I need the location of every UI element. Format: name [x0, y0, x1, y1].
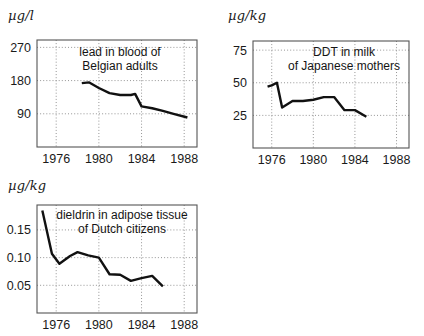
chart-annotation-line: Belgian adults [82, 59, 157, 73]
x-tick-label: 1976 [42, 152, 70, 166]
y-tick-label: 25 [233, 109, 247, 123]
x-tick-label: 1980 [299, 153, 327, 167]
panel-ddt-milk-japan: µg/kg 2550751976198019841988DDT in milko… [212, 0, 424, 170]
y-tick-label: 75 [233, 44, 247, 58]
x-tick-label: 1984 [128, 152, 156, 166]
x-tick-label: 1988 [170, 152, 198, 166]
y-tick-label: 180 [10, 74, 31, 88]
y-tick-label: 0.15 [7, 223, 31, 237]
chart-lead-blood-belgium: 901802701976198019841988lead in blood of… [0, 0, 212, 170]
chart-annotation-line: DDT in milk [313, 45, 376, 59]
chart-annotation-line: of Dutch citizens [78, 222, 166, 236]
chart-annotation-line: lead in blood of [79, 45, 161, 59]
x-tick-label: 1984 [128, 318, 156, 332]
chart-annotation-line: of Japanese mothers [288, 59, 400, 73]
y-tick-label: 50 [233, 76, 247, 90]
y-tick-label: 270 [10, 41, 31, 55]
x-tick-label: 1988 [383, 153, 411, 167]
x-tick-label: 1984 [341, 153, 369, 167]
chart-ddt-milk-japan: 2550751976198019841988DDT in milkof Japa… [212, 0, 424, 170]
y-tick-label: 0.05 [7, 279, 31, 293]
x-tick-label: 1976 [258, 153, 286, 167]
y-tick-label: 0.10 [7, 251, 31, 265]
y-tick-label: 90 [17, 107, 31, 121]
panel-dieldrin-adipose-netherlands: µg/kg 0.050.100.151976198019841988dieldr… [0, 168, 212, 336]
chart-annotation-line: dieldrin in adipose tissue [56, 208, 188, 222]
x-tick-label: 1980 [85, 152, 113, 166]
data-series-line [82, 82, 188, 117]
x-tick-label: 1976 [42, 318, 70, 332]
chart-dieldrin-adipose-netherlands: 0.050.100.151976198019841988dieldrin in … [0, 168, 212, 336]
panel-lead-blood-belgium: µg/l 901802701976198019841988lead in blo… [0, 0, 212, 170]
x-tick-label: 1988 [170, 318, 198, 332]
data-series-line [268, 83, 367, 117]
x-tick-label: 1980 [85, 318, 113, 332]
